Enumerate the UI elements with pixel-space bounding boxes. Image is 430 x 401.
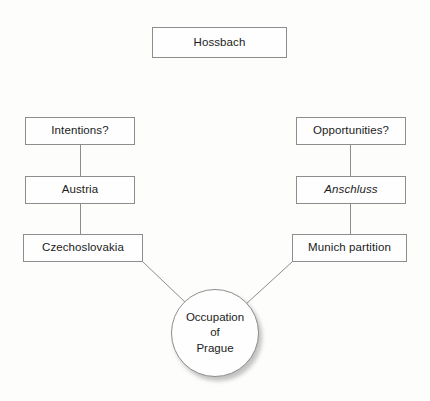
node-hossbach: Hossbach: [152, 27, 287, 58]
node-czechoslovakia-label: Czechoslovakia: [42, 242, 124, 254]
node-austria: Austria: [25, 176, 135, 204]
node-opportunities-label: Opportunities?: [313, 125, 389, 137]
diagram-canvas: Hossbach Intentions? Austria Czechoslova…: [0, 0, 430, 401]
node-munich-partition: Munich partition: [292, 234, 407, 262]
node-occupation-line3: Prague: [196, 341, 233, 356]
node-occupation-line2: of: [210, 325, 220, 340]
node-opportunities: Opportunities?: [296, 117, 406, 145]
edge-czechoslovakia-occupation: [143, 262, 186, 303]
node-anschluss: Anschluss: [296, 176, 406, 204]
node-occupation-line1: Occupation: [186, 310, 244, 325]
node-czechoslovakia: Czechoslovakia: [23, 234, 143, 262]
node-austria-label: Austria: [62, 184, 99, 196]
node-intentions-label: Intentions?: [51, 125, 108, 137]
node-hossbach-label: Hossbach: [194, 37, 246, 49]
node-munich-partition-label: Munich partition: [308, 242, 391, 254]
node-occupation-of-prague: Occupation of Prague: [171, 289, 259, 377]
node-anschluss-label: Anschluss: [324, 184, 377, 196]
edge-munich-occupation: [246, 262, 292, 304]
node-intentions: Intentions?: [25, 117, 135, 145]
